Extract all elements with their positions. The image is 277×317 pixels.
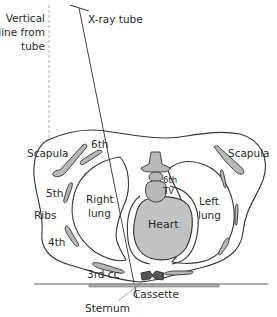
- sternum: [141, 271, 164, 280]
- rib-4th-right: [65, 226, 78, 247]
- label-vertical-line-2: line from: [0, 26, 45, 38]
- label-sternum: Sternum: [85, 302, 130, 314]
- label-vertical-line-1: Vertical: [6, 12, 45, 24]
- label-left-lung-1: Left: [199, 195, 219, 207]
- label-ribs: Ribs: [34, 209, 56, 221]
- label-xray-tube: X-ray tube: [88, 13, 143, 25]
- label-tv-2: TV: [162, 186, 174, 196]
- xray-chest-diagram: Vertical line from tube X-ray tube Scapu…: [0, 0, 277, 317]
- label-vertical-line-3: tube: [21, 40, 45, 52]
- rib-left-3: [219, 238, 229, 255]
- label-cassette: Cassette: [133, 288, 179, 300]
- label-scapula-right: Scapula: [27, 147, 69, 159]
- label-right-lung-2: lung: [88, 207, 111, 219]
- rib-6th-right: [80, 150, 102, 164]
- label-heart: Heart: [148, 218, 179, 231]
- label-left-lung-2: lung: [198, 209, 221, 221]
- rib-left-2: [235, 204, 238, 225]
- label-rib-4th: 4th: [48, 236, 65, 248]
- label-scapula-left: Scapula: [228, 147, 270, 159]
- label-rib-3rd-cc: 3rd cc: [87, 268, 120, 280]
- label-rib-5th: 5th: [46, 187, 63, 199]
- label-rib-6th: 6th: [91, 138, 108, 150]
- label-right-lung-1: Right: [86, 193, 114, 205]
- rib-5th-right: [64, 183, 73, 203]
- label-tv-1: 6th: [163, 175, 177, 185]
- rib-left-1: [220, 170, 226, 188]
- thoracic-vertebra-spine: [141, 152, 170, 172]
- xray-beam-line: [79, 8, 137, 298]
- rib-left-4: [165, 271, 193, 275]
- cassette: [89, 284, 219, 287]
